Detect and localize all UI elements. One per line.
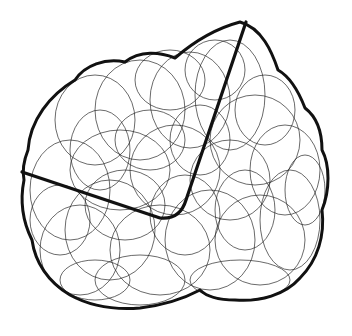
- ellipse-stroke: [30, 185, 90, 255]
- ellipse-stroke: [215, 170, 275, 250]
- blob-outline: [22, 22, 328, 308]
- ellipse-stroke: [215, 195, 305, 285]
- ellipse-stroke: [170, 105, 230, 175]
- ellipse-stroke: [135, 50, 205, 110]
- ellipse-stroke: [210, 95, 300, 185]
- ellipse-stroke: [165, 190, 255, 290]
- circle-sketch-illustration: [0, 0, 352, 336]
- ellipse-stroke: [260, 170, 320, 270]
- ellipse-stroke: [55, 75, 135, 165]
- ellipse-stroke: [285, 155, 325, 225]
- ellipse-stroke: [250, 125, 320, 215]
- ellipse-stroke: [150, 175, 220, 255]
- ellipse-stroke: [115, 110, 185, 170]
- ellipse-stroke: [235, 75, 295, 145]
